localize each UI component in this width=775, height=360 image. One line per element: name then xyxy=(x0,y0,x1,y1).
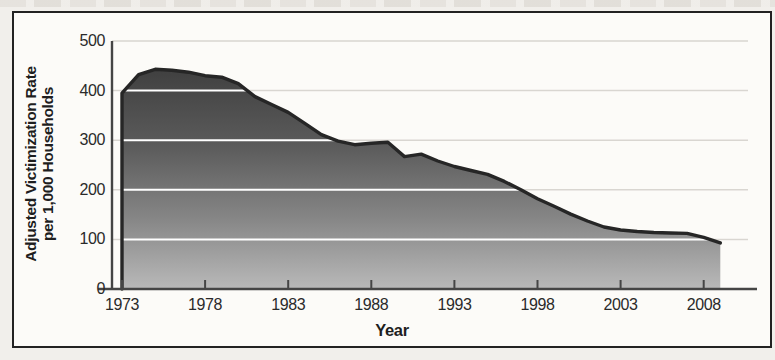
x-tick-label: 2008 xyxy=(672,296,736,314)
x-tick-label: 1993 xyxy=(422,296,486,314)
x-tick-label: 1973 xyxy=(90,296,154,314)
y-axis-title-line2: per 1,000 Households xyxy=(39,66,56,262)
x-tick-label: 1983 xyxy=(256,296,320,314)
x-tick-label: 1988 xyxy=(339,296,403,314)
y-axis-title-line1: Adjusted Victimization Rate xyxy=(22,66,39,262)
x-axis-title: Year xyxy=(375,321,409,340)
y-tick-label: 500 xyxy=(0,32,105,50)
x-tick-label: 1998 xyxy=(506,296,570,314)
area-fill xyxy=(122,69,720,289)
figure: 0100200300400500 19731978198319881993199… xyxy=(0,0,775,360)
x-tick-label: 1978 xyxy=(173,296,237,314)
x-tick-label: 2003 xyxy=(589,296,653,314)
